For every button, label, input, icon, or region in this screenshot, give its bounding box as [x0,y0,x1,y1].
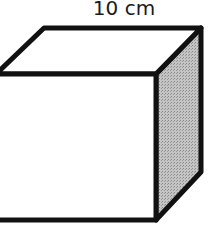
cube-figure [0,0,210,234]
cube-front-face [0,74,156,220]
